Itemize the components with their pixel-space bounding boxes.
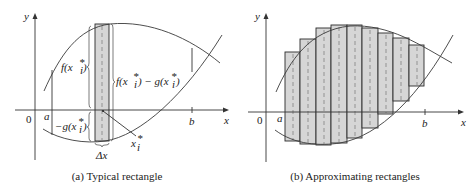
svg-text:): ) — [82, 61, 87, 74]
x-axis-label-b: x — [460, 116, 466, 128]
svg-text:) − g(x: ) − g(x — [137, 75, 169, 88]
origin-label: 0 — [26, 113, 32, 125]
rectangle-5 — [347, 25, 362, 138]
x-axis-label: x — [223, 114, 229, 126]
rectangle-3 — [316, 28, 331, 145]
origin-label-b: 0 — [257, 114, 263, 126]
x-axis-arrow-icon — [223, 108, 229, 113]
f-minus-g-label: f(x i * ) − g(x i * ) — [116, 70, 180, 90]
rectangle-9 — [409, 45, 424, 86]
svg-text:−g(x: −g(x — [55, 120, 77, 133]
panel-b: y x 0 a b (b) Approximating rectangles — [248, 10, 466, 183]
x-axis-arrow-icon-b — [458, 110, 464, 115]
panel-a: y x 0 a b f(x i * ) f(x i * ) − g(x i * … — [15, 10, 229, 183]
figure: y x 0 a b f(x i * ) f(x i * ) − g(x i * … — [0, 0, 471, 187]
approximating-rectangles — [285, 25, 424, 145]
dx-label: Δx — [95, 149, 107, 161]
svg-text:f(x: f(x — [116, 75, 128, 88]
rectangle-1 — [285, 52, 300, 141]
f-brace — [87, 26, 91, 108]
rectangle-6 — [362, 28, 378, 128]
b-label: b — [189, 115, 195, 127]
svg-text:): ) — [175, 75, 180, 88]
caption-a: (a) Typical rectangle — [72, 170, 163, 183]
y-axis-label-b: y — [254, 10, 260, 22]
f-curve — [44, 23, 220, 91]
xi-label: x i * — [130, 132, 143, 153]
a-label-b: a — [277, 112, 283, 124]
y-axis-label: y — [23, 10, 29, 22]
caption-b: (b) Approximating rectangles — [290, 170, 420, 183]
y-axis-arrow-icon — [33, 13, 38, 19]
b-label-b: b — [422, 117, 428, 129]
neg-g-label: −g(x i * ) — [55, 115, 87, 135]
svg-text:): ) — [82, 120, 87, 133]
f-label: f(x i * ) — [61, 56, 87, 76]
f-minus-g-brace — [111, 24, 115, 141]
svg-text:x: x — [130, 137, 136, 149]
svg-text:f(x: f(x — [61, 61, 73, 74]
dx-brace — [95, 143, 109, 147]
rectangle-7 — [378, 33, 393, 114]
a-label: a — [44, 110, 50, 122]
y-axis-arrow-icon-b — [264, 13, 269, 19]
xi-point — [102, 110, 104, 112]
neg-g-brace — [87, 112, 91, 141]
svg-text:*: * — [137, 132, 143, 144]
